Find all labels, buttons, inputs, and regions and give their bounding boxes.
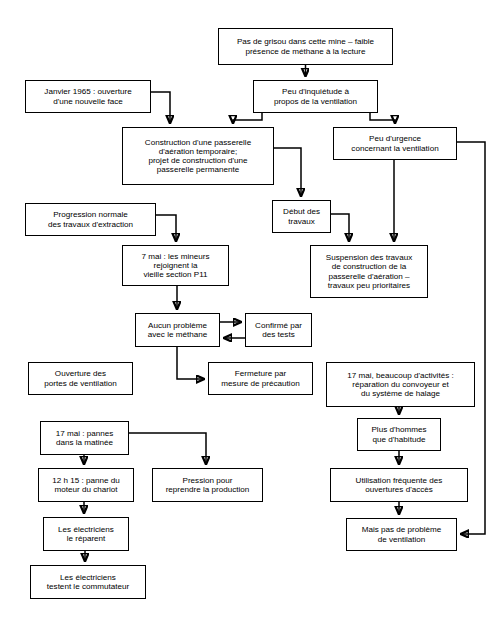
connector-n15-to-n18 <box>129 433 206 464</box>
connector-n2-to-n4 <box>233 113 262 123</box>
flowchart-node-n19: Utilisation fréquente des ouvertures d'a… <box>330 468 468 502</box>
flowchart-node-n16: Plus d'hommes que d'habitude <box>357 418 441 451</box>
flowchart-node-n10: Aucun problème avec le méthane <box>135 313 220 347</box>
flowchart-canvas: Pas de grisou dans cette mine – faible p… <box>0 0 503 619</box>
connector-n7-to-n9 <box>331 214 349 241</box>
flowchart-node-n14: 17 mai, beaucoup d'activités : réparatio… <box>326 362 475 407</box>
flowchart-node-n22: Les électriciens testent le commutateur <box>30 565 146 599</box>
flowchart-node-n17: 12 h 15 : panne du moteur du chariot <box>38 468 134 502</box>
connector-n4-to-n7 <box>274 148 301 196</box>
flowchart-node-n3: Janvier 1965 : ouverture d'une nouvelle … <box>25 80 151 113</box>
flowchart-node-n13: Fermeture par mesure de précaution <box>208 362 313 395</box>
flowchart-node-n8: 7 mai : les mineurs rejoignent la vieill… <box>122 245 229 286</box>
flowchart-node-n12: Ouverture des portes de ventilation <box>28 362 133 395</box>
flowchart-node-n11: Confirmé par des tests <box>245 313 312 347</box>
flowchart-node-n6: Progression normale des travaux d'extrac… <box>25 203 156 236</box>
flowchart-node-n2: Peu d'inquiétude à propos de la ventilat… <box>253 80 378 113</box>
flowchart-node-n20: Les électriciens le réparent <box>43 517 129 551</box>
flowchart-node-n18: Pression pour reprendre la production <box>152 468 263 502</box>
flowchart-node-n5: Peu d'urgence concernant la ventilation <box>333 127 457 160</box>
flowchart-node-n15: 17 mai : pannes dans la matinée <box>40 421 129 455</box>
connector-n3-to-n4 <box>151 92 170 123</box>
flowchart-node-n1: Pas de grisou dans cette mine – faible p… <box>218 28 393 65</box>
flowchart-node-n7: Début des travaux <box>272 200 331 233</box>
connector-n6-to-n8 <box>156 215 176 241</box>
flowchart-node-n21: Mais pas de problème de ventilation <box>346 518 457 551</box>
connector-n2-to-n5 <box>370 113 395 123</box>
flowchart-node-n9: Suspension des travaux de construction d… <box>310 245 428 298</box>
connector-n10-to-n13 <box>177 347 204 379</box>
flowchart-node-n4: Construction d'une passerelle d'aération… <box>122 127 274 185</box>
